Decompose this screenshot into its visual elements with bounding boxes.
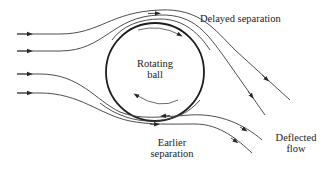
streamline-lower-2 — [17, 93, 252, 153]
earlier-label-line2: separation — [142, 148, 202, 159]
deflected-flow-label: Deflected flow — [266, 132, 326, 154]
deflected-label-line1: Deflected — [266, 132, 326, 143]
streamline-lower-1 — [17, 74, 262, 140]
ball-label-line2: ball — [130, 69, 180, 80]
earlier-label-line1: Earlier — [142, 137, 202, 148]
rotating-ball-label: Rotating ball — [130, 58, 180, 80]
earlier-separation-label: Earlier separation — [142, 137, 202, 159]
delayed-separation-label: Delayed separation — [200, 13, 281, 24]
rotation-arrow-bottom-icon — [136, 95, 178, 104]
rotation-arrow-top-icon — [138, 28, 180, 35]
deflected-label-line2: flow — [266, 143, 326, 154]
ball-label-line1: Rotating — [130, 58, 180, 69]
